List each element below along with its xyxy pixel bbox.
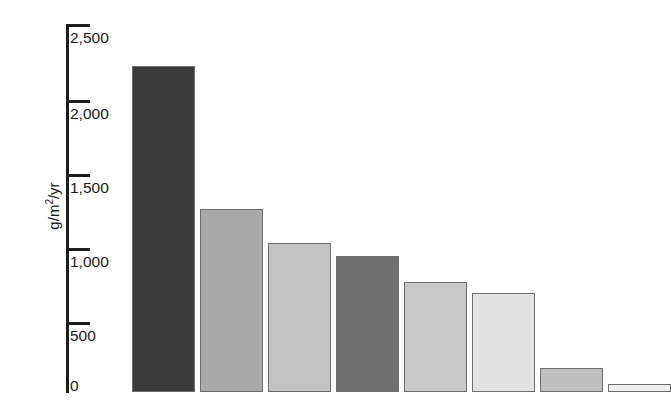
bar-2 — [200, 209, 263, 392]
bar-4 — [336, 256, 399, 392]
bar-8 — [608, 384, 671, 392]
bar-1 — [132, 66, 195, 392]
bar-7 — [540, 368, 603, 392]
bar-6 — [472, 293, 535, 392]
bar-3 — [268, 243, 331, 392]
bar-5 — [404, 282, 467, 392]
